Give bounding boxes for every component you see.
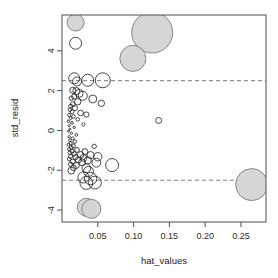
data-point [236, 169, 268, 201]
y-tick-label: 4 [46, 48, 56, 53]
y-tick-label: 0 [46, 128, 56, 133]
x-tick-label: 0.05 [89, 231, 107, 241]
data-point [67, 14, 84, 31]
x-tick-label: 0.15 [161, 231, 179, 241]
x-tick-label: 0.20 [196, 231, 214, 241]
y-tick-label: -2 [46, 166, 56, 174]
y-tick-label: -4 [46, 206, 56, 214]
data-point [82, 199, 101, 218]
x-axis-title: hat_values [141, 255, 187, 266]
y-tick-label: 2 [46, 88, 56, 93]
x-tick-label: 0.25 [232, 231, 250, 241]
influence-plot-container: 0.050.100.150.200.25 420-2-4 hat_values … [0, 0, 278, 278]
x-tick-label: 0.10 [125, 231, 143, 241]
y-axis-title: std_resid [9, 99, 20, 138]
influence-scatter-plot: 0.050.100.150.200.25 420-2-4 hat_values … [0, 0, 278, 278]
data-point [120, 45, 146, 71]
